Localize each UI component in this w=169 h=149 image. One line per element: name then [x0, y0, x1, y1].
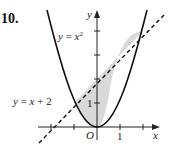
- graph: y = x2 y = x + 2 y x O 1 1: [0, 0, 169, 149]
- origin-label: O: [86, 129, 94, 141]
- line-label: y = x + 2: [12, 95, 52, 107]
- x-axis-label: x: [152, 129, 158, 141]
- x-tick-label-1: 1: [117, 130, 123, 142]
- y-tick-label-1: 1: [87, 97, 93, 109]
- curve-label: y = x2: [57, 30, 84, 42]
- shaded-region: [74, 31, 143, 127]
- y-axis-label: y: [86, 8, 92, 20]
- y-axis-arrow-icon: [94, 10, 100, 18]
